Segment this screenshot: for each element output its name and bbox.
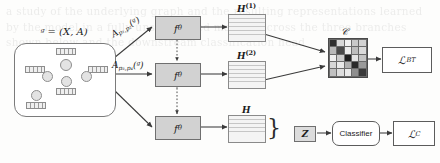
embedding-h1-superscript: (1) (246, 2, 257, 10)
embedding-h2-label: H(2) (237, 49, 256, 61)
graph-node-leaf (31, 90, 42, 101)
correlation-cell-0-0 (330, 40, 337, 47)
embedding-h-label: H (242, 103, 251, 115)
correlation-cell-4-3 (352, 69, 359, 76)
correlation-cell-1-1 (337, 47, 344, 54)
classifier-label: Classifier (340, 129, 373, 138)
augmentation-label-middle: Ap₃,p₄(ᵍ) (112, 60, 144, 71)
encoder-2-subscript: θ (178, 71, 182, 79)
correlation-cell-0-3 (352, 40, 359, 47)
encoder-box-3[interactable]: fθ (155, 116, 201, 140)
embedding-h1-block (228, 14, 266, 42)
node-feature-vector (56, 88, 76, 95)
encoder-3-subscript: θ (178, 124, 182, 132)
correlation-cell-2-4 (359, 55, 366, 62)
embedding-h1-label: H(1) (237, 2, 256, 14)
correlation-cell-3-0 (330, 62, 337, 69)
correlation-cell-1-4 (359, 47, 366, 54)
correlation-cell-3-4 (359, 62, 366, 69)
embedding-h2-block (228, 61, 266, 89)
correlation-cell-4-2 (345, 69, 352, 76)
correlation-cell-0-2 (345, 40, 352, 47)
embedding-h2-superscript: (2) (246, 49, 257, 57)
correlation-cell-1-2 (345, 47, 352, 54)
correlation-cell-0-1 (337, 40, 344, 47)
node-feature-vector (56, 48, 76, 55)
correlation-cell-1-3 (352, 47, 359, 54)
graph-node-right (81, 71, 92, 82)
graph-node-left (42, 71, 53, 82)
pooling-brace-icon: } (267, 117, 281, 139)
node-feature-vector (88, 66, 108, 73)
aug-mid-arg: (ᵍ) (133, 60, 144, 70)
graph-node-root (60, 59, 72, 71)
loss-c-base: ℒ (408, 128, 416, 140)
encoder-box-1[interactable]: fθ (155, 16, 201, 40)
embedding-h2-base: H (237, 51, 246, 61)
encoder-1-subscript: θ (178, 24, 182, 32)
graph-node-center (61, 76, 72, 87)
correlation-cell-2-0 (330, 55, 337, 62)
correlation-cell-1-0 (330, 47, 337, 54)
architecture-diagram: a study of the underlying graph and the … (0, 0, 440, 163)
correlation-cell-0-4 (359, 40, 366, 47)
encoder-box-2[interactable]: fθ (155, 63, 201, 87)
latent-z-label: Z (302, 129, 309, 139)
correlation-cell-4-0 (330, 69, 337, 76)
node-feature-vector (25, 66, 45, 73)
augmentation-label-top: Ap₁,p₂(ᵍ) (109, 15, 141, 40)
correlation-cell-3-2 (345, 62, 352, 69)
correlation-cell-2-2 (345, 55, 352, 62)
loss-c-box: ℒC (393, 121, 435, 146)
correlation-cell-3-1 (337, 62, 344, 69)
correlation-cell-2-3 (352, 55, 359, 62)
correlation-cell-2-1 (337, 55, 344, 62)
loss-c-subscript: C (416, 130, 421, 138)
aug-mid-subscript: p₃,p₄ (119, 64, 133, 71)
correlation-matrix (328, 38, 368, 78)
classifier-box[interactable]: Classifier (332, 121, 380, 146)
correlation-matrix-label: 𝒞 (341, 26, 348, 38)
latent-z-box: Z (294, 126, 316, 142)
embedding-h-base: H (242, 105, 251, 115)
loss-bt-subscript: BT (406, 56, 415, 64)
node-feature-vector (26, 102, 46, 109)
loss-bt-box: ℒBT (382, 47, 432, 73)
embedding-h1-base: H (237, 4, 246, 14)
correlation-cell-3-3 (352, 62, 359, 69)
graph-label: ᵍ = (X, A) (14, 26, 114, 37)
correlation-cell-4-1 (337, 69, 344, 76)
embedding-h-block (228, 115, 266, 143)
correlation-cell-4-4 (359, 69, 366, 76)
